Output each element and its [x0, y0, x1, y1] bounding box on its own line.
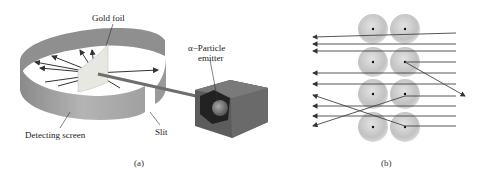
- gold-atom-lattice: [358, 14, 420, 142]
- label-gold-foil: Gold foil: [92, 13, 125, 23]
- alpha-particle-emitter: [195, 80, 268, 138]
- caption-a: (a): [134, 158, 144, 168]
- diagram-svg: [0, 0, 480, 180]
- alpha-particle-trajectories: [313, 33, 465, 126]
- label-emitter-line2: emitter: [198, 53, 224, 63]
- rutherford-figure: Gold foil α−Particle emitter Detecting s…: [0, 0, 480, 180]
- label-slit: Slit: [155, 127, 168, 137]
- label-emitter-line1: α−Particle: [188, 43, 225, 53]
- label-detecting-screen: Detecting screen: [25, 130, 85, 140]
- caption-b: (b): [381, 158, 392, 168]
